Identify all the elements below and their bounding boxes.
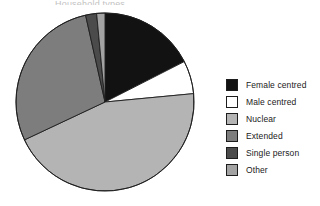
legend-label-nuclear: Nuclear xyxy=(246,114,276,124)
chart-legend: Female centred Male centred Nuclear Exte… xyxy=(226,76,320,178)
legend-label-male-centred: Male centred xyxy=(246,97,296,107)
legend-label-female-centred: Female centred xyxy=(246,80,306,90)
legend-swatch-nuclear xyxy=(226,113,238,125)
chart-title-cropped: Household types xyxy=(55,0,185,5)
pie-svg xyxy=(15,12,195,192)
legend-item-nuclear[interactable]: Nuclear xyxy=(226,110,320,127)
legend-swatch-other xyxy=(226,164,238,176)
legend-swatch-male-centred xyxy=(226,96,238,108)
legend-item-female-centred[interactable]: Female centred xyxy=(226,76,320,93)
legend-label-single-person: Single person xyxy=(246,148,299,158)
legend-swatch-single-person xyxy=(226,147,238,159)
legend-item-single-person[interactable]: Single person xyxy=(226,144,320,161)
legend-label-extended: Extended xyxy=(246,131,283,141)
legend-label-other: Other xyxy=(246,165,268,175)
pie-chart-figure: Household types Female centred Male cent… xyxy=(0,0,320,206)
legend-item-extended[interactable]: Extended xyxy=(226,127,320,144)
legend-swatch-extended xyxy=(226,130,238,142)
legend-item-other[interactable]: Other xyxy=(226,161,320,178)
legend-swatch-female-centred xyxy=(226,79,238,91)
pie-plot-area xyxy=(15,12,195,192)
legend-item-male-centred[interactable]: Male centred xyxy=(226,93,320,110)
